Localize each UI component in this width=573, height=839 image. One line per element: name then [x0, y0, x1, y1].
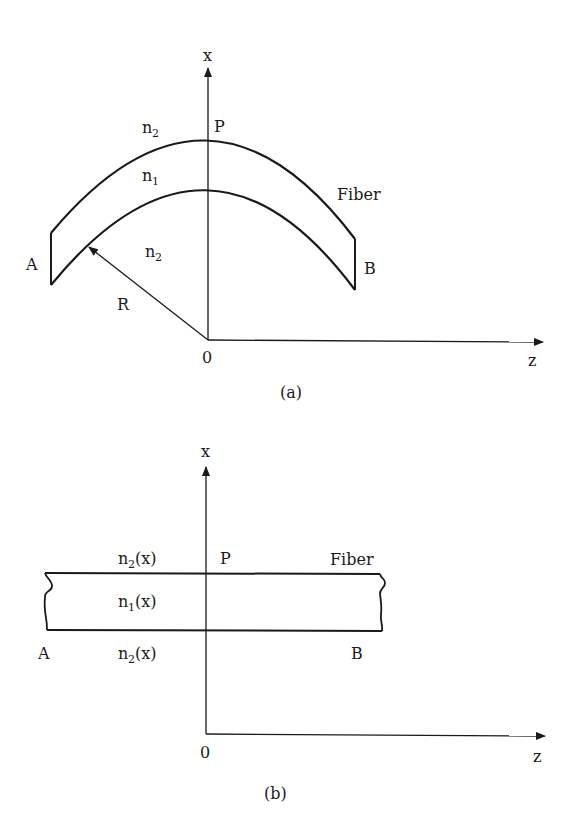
figure-a-bent-fiber: x z 0 R P Fiber A B n 2 n 1 n 2: [25, 46, 543, 402]
svg-text:2: 2: [128, 653, 135, 666]
figure-a-fiber-label: Fiber: [337, 185, 381, 204]
figure-b-core-index: n 1 (x): [118, 592, 157, 614]
svg-text:2: 2: [128, 558, 135, 571]
figure-b-origin-label: 0: [200, 743, 210, 762]
svg-text:n: n: [118, 592, 128, 611]
figure-b-equivalent-straight-fiber: x z 0 P Fiber A B n 2 (x) n 1 (x) n 2: [37, 442, 545, 803]
svg-text:(x): (x): [135, 592, 157, 611]
svg-text:2: 2: [152, 127, 159, 140]
fiber-bending-figure: x z 0 R P Fiber A B n 2 n 1 n 2: [0, 0, 573, 839]
svg-text:(x): (x): [135, 644, 157, 663]
svg-text:n: n: [142, 166, 152, 185]
figure-b-end-a-label: A: [37, 644, 50, 663]
figure-a-fiber-inner-edge: [51, 190, 355, 290]
figure-a-point-p-label: P: [214, 117, 225, 136]
figure-b-end-b-label: B: [351, 644, 363, 663]
figure-b-z-axis-label: z: [533, 747, 541, 766]
figure-b-lower-cladding-index: n 2 (x): [118, 644, 157, 666]
figure-a-origin-label: 0: [202, 348, 212, 367]
figure-b-fiber-top-edge: [45, 573, 380, 574]
svg-text:1: 1: [128, 601, 135, 614]
figure-b-x-axis-label: x: [201, 442, 210, 461]
figure-a-z-axis: [208, 340, 543, 342]
svg-text:(x): (x): [135, 549, 157, 568]
svg-text:n: n: [142, 118, 152, 137]
figure-b-fiber-break-left: [45, 573, 52, 630]
svg-text:n: n: [145, 242, 155, 261]
figure-b-fiber-label: Fiber: [330, 550, 374, 569]
figure-b-fiber-bottom-edge: [47, 630, 382, 631]
svg-text:n: n: [118, 644, 128, 663]
figure-a-end-a-label: A: [25, 255, 38, 274]
svg-text:n: n: [118, 549, 128, 568]
svg-text:1: 1: [152, 175, 159, 188]
figure-b-upper-cladding-index: n 2 (x): [118, 549, 157, 571]
figure-a-cladding-index-inner: n 2: [145, 242, 162, 264]
figure-b-caption: (b): [264, 784, 287, 803]
figure-a-z-axis-label: z: [528, 351, 536, 370]
figure-a-end-b-label: B: [364, 259, 376, 278]
figure-a-x-axis-label: x: [203, 46, 212, 65]
figure-a-core-index: n 1: [142, 166, 159, 188]
figure-a-radius-label: R: [117, 295, 130, 314]
figure-a-cladding-index-outer: n 2: [142, 118, 159, 140]
figure-b-point-p-label: P: [220, 549, 231, 568]
figure-b-z-axis: [206, 734, 545, 736]
figure-a-caption: (a): [280, 383, 302, 402]
figure-b-fiber-break-right: [380, 574, 385, 631]
svg-text:2: 2: [155, 251, 162, 264]
